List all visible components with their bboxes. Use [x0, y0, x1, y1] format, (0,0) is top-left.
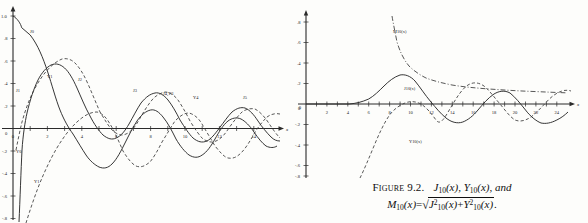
- left-curve-label-y4: Y4: [193, 95, 199, 100]
- curve-y10: [360, 83, 571, 178]
- left-curve-label-j3: J3: [133, 88, 138, 93]
- right-curve-label-j10: J10(x): [404, 86, 416, 91]
- caption-j2-arg: (x): [445, 198, 457, 210]
- curve-j1: [19, 64, 280, 222]
- left-curve-label-j0: J0: [30, 29, 35, 34]
- caption-y-arg: (x),: [477, 181, 492, 193]
- left-curve-label-j1: J1: [16, 88, 20, 93]
- right-xtick-10: 20: [513, 110, 518, 115]
- curve-j0: [13, 16, 277, 168]
- left-x-axis-arrow: [279, 126, 285, 131]
- left-ytick-4: .2: [4, 104, 8, 109]
- caption-m-arg: (x): [404, 198, 416, 210]
- left-ytick-2: .6: [4, 59, 8, 64]
- left-ytick-1: .8: [4, 36, 8, 41]
- radical-icon: √: [422, 198, 429, 212]
- caption-period: .: [494, 198, 497, 210]
- right-ytick-3: .2: [297, 81, 301, 86]
- figure-page: x 1.0 .8 .6 .4 .2 0 -.2 -.4 -.6 -.8: [0, 0, 588, 223]
- figure-caption: Figure 9.2.J10(x), Y10(x), and M10(x)=√J…: [300, 180, 584, 213]
- right-plot-svg: x .8 .6 .4 .2 0 -.2 -.4 -.6 -.8: [294, 0, 588, 180]
- caption-line-2: M10(x)=√J210(x)+Y210(x).: [300, 196, 584, 213]
- curve-y0: [16, 59, 280, 150]
- caption-line-1: Figure 9.2.J10(x), Y10(x), and: [300, 180, 584, 196]
- right-ytick-5: -.2: [295, 122, 301, 127]
- left-xtick-2: 4: [81, 134, 84, 139]
- caption-j-subscript: 10: [438, 186, 446, 195]
- left-plot-svg: x 1.0 .8 .6 .4 .2 0 -.2 -.4 -.6 -.8: [0, 0, 294, 223]
- right-xtick-2: 4: [347, 110, 350, 115]
- curve-m10: [392, 16, 566, 93]
- right-ytick-6: -.4: [295, 143, 301, 148]
- left-ytick-3: .4: [4, 81, 8, 86]
- left-ytick-8: -.6: [2, 194, 8, 199]
- left-ytick-6: -.2: [2, 149, 8, 154]
- left-plot-panel: x 1.0 .8 .6 .4 .2 0 -.2 -.4 -.6 -.8: [0, 0, 294, 223]
- left-ytick-0: 1.0: [1, 14, 7, 19]
- right-ytick-8: -.8: [295, 174, 301, 179]
- right-xtick-9: 18: [492, 110, 497, 115]
- right-xtick-1: 2: [326, 110, 329, 115]
- left-curve-label-y1b: Y1: [34, 179, 39, 184]
- caption-y2-arg: (x): [481, 198, 493, 210]
- caption-m-subscript: 10: [396, 203, 404, 212]
- right-ytick-1: .6: [297, 40, 301, 45]
- right-ytick-0: .8: [297, 20, 301, 25]
- right-curve-label-y10: Y10(x): [409, 139, 422, 144]
- right-xtick-5: 10: [408, 110, 413, 115]
- left-xtick-5: 10: [183, 134, 188, 139]
- caption-radicand: J210(x)+Y210(x): [428, 197, 494, 210]
- left-curve-label-y0: Y0: [16, 149, 22, 154]
- caption-j-arg: (x),: [446, 181, 461, 193]
- left-ytick-5: 0: [5, 131, 8, 136]
- right-x-axis-label: x: [576, 102, 580, 107]
- caption-and-word: and: [495, 181, 512, 193]
- figure-number-label: Figure 9.2.: [373, 181, 425, 193]
- left-y-axis-arrow: [11, 6, 16, 12]
- curve-j10: [306, 75, 568, 124]
- left-curve-label-j5: J5: [243, 95, 248, 100]
- right-ytick-7: -.6: [295, 163, 301, 168]
- caption-y2-subscript: 10: [473, 203, 481, 212]
- right-ytick-2: .4: [297, 61, 301, 66]
- right-y-axis-arrow: [304, 10, 308, 16]
- left-xtick-0: 0: [12, 134, 15, 139]
- right-curve-label-m10: M10(x): [393, 29, 407, 34]
- left-xtick-4: 8: [149, 134, 152, 139]
- left-ytick-7: -.4: [2, 171, 8, 176]
- right-x-axis-arrow: [570, 102, 576, 106]
- right-xtick-3: 6: [368, 110, 371, 115]
- left-x-axis-label: x: [285, 127, 289, 132]
- right-xtick-7: 14: [450, 110, 455, 115]
- left-curve-label-y1a: Y1: [47, 74, 52, 79]
- right-xtick-0: 0: [299, 105, 302, 110]
- caption-m-symbol: M: [387, 198, 396, 210]
- left-ytick-9: -.8: [2, 216, 8, 221]
- caption-j2-subscript: 10: [438, 203, 446, 212]
- left-curve-label-j2: J2: [78, 77, 82, 82]
- right-xtick-12: 24: [555, 110, 560, 115]
- left-xtick-1: 2: [46, 134, 49, 139]
